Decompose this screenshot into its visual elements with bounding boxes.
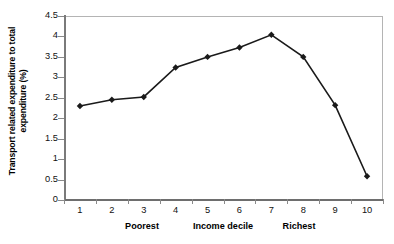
caption-income-decile: Income decile	[176, 221, 270, 231]
data-point-marker	[109, 97, 115, 103]
data-point-marker	[236, 44, 242, 50]
data-point-marker	[204, 54, 210, 60]
data-point-marker	[364, 173, 370, 179]
transport-expenditure-line-chart: Transport related expenditure to total e…	[0, 0, 394, 244]
data-series-layer	[0, 0, 394, 244]
caption-poorest: Poorest	[112, 221, 172, 231]
data-point-marker	[77, 103, 83, 109]
caption-richest: Richest	[268, 221, 330, 231]
series-line	[80, 35, 367, 176]
